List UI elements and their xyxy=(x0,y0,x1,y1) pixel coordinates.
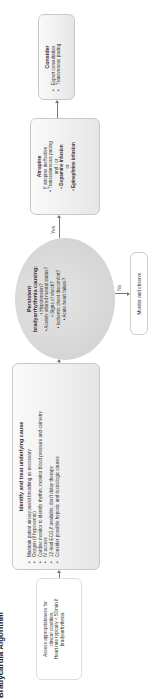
identify-heading: Identify and treat underlying cause xyxy=(19,370,25,563)
arrow-identify-to-decision xyxy=(59,360,60,363)
list-item: Consider possible hypoxic and toxicologi… xyxy=(55,370,61,557)
assess-box: Assess appropriateness for clinical cond… xyxy=(36,578,82,680)
assess-line: bradyarrhythmia. xyxy=(60,583,66,675)
arrow-atropine-to-consider xyxy=(57,101,58,118)
yes-label: Yes xyxy=(50,226,56,234)
consider-list: Expert consultation Transvenous pacing xyxy=(51,23,62,91)
atropine-box: Atropine If atropine ineffective : • Tra… xyxy=(30,118,100,215)
arrow-no xyxy=(115,293,129,294)
arrow-yes xyxy=(59,216,60,238)
identify-list: Maintain patent airway;assist breathing … xyxy=(27,370,61,563)
list-item: Transvenous pacing xyxy=(56,23,62,85)
no-label: No xyxy=(116,285,122,291)
diagram-title: Bradycardia Algorithm xyxy=(0,612,5,698)
consider-box: Consider Expert consultation Transvenous… xyxy=(38,14,75,100)
identify-cause-box: Identify and treat underlying cause Main… xyxy=(12,363,100,570)
decision-circle: Persistent bradyarrhythmia causing: • Hy… xyxy=(15,238,115,360)
list-item: • Epinephrine infusion xyxy=(71,123,77,210)
monitor-box: Monitor and observe xyxy=(130,252,148,335)
arrow-assess-to-identify xyxy=(59,571,60,578)
list-item: • Acute heart failure? xyxy=(62,246,68,352)
